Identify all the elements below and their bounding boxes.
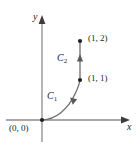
point-1-2-label: (1, 2) bbox=[88, 34, 108, 43]
curve-c1-label: C1 bbox=[47, 91, 57, 101]
curve-c2-label: C2 bbox=[57, 53, 67, 63]
curve-c2-label-letter: C bbox=[57, 52, 64, 63]
point-origin-label: (0, 0) bbox=[9, 124, 29, 133]
x-axis-label: x bbox=[127, 122, 131, 132]
vector-field-path-diagram: y x C1 C2 (1, 2) (1, 1) (0, 0) bbox=[0, 0, 140, 151]
curve-c1-label-letter: C bbox=[47, 90, 54, 101]
point-1-1-label: (1, 1) bbox=[88, 74, 108, 83]
point-origin-marker bbox=[40, 118, 44, 122]
y-axis-label: y bbox=[33, 12, 37, 22]
curve-c2-label-subscript: 2 bbox=[64, 57, 68, 65]
y-axis-arrowhead bbox=[39, 15, 46, 24]
point-1-1-marker bbox=[78, 78, 82, 82]
curve-c1-label-subscript: 1 bbox=[54, 95, 58, 103]
point-1-2-marker bbox=[78, 39, 82, 43]
curve-c2-direction-arrow bbox=[77, 54, 83, 61]
